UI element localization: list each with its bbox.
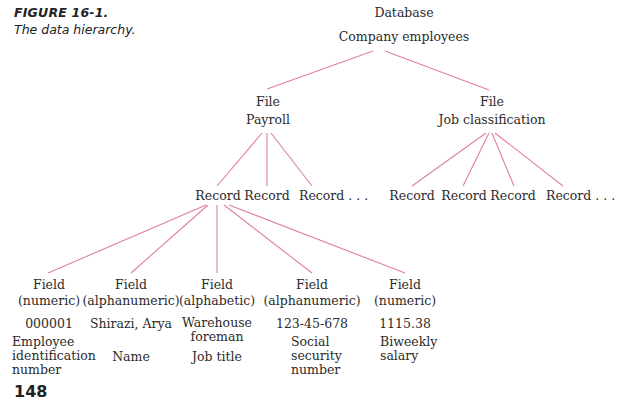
field-type: Field: [18, 277, 80, 293]
record-node: Record: [195, 188, 240, 204]
database-name: Company employees: [339, 29, 470, 45]
file-node-job-classification: File Job classification: [438, 94, 545, 128]
field-value: 123-45-678: [263, 316, 360, 332]
field-node-name: Field (alphanumeric) Shirazi, Arya: [82, 277, 179, 332]
field-type: Field: [374, 277, 436, 293]
field-description: Biweekly salary: [380, 335, 437, 363]
field-kind: (alphabetic): [179, 293, 255, 309]
field-node-ssn: Field (alphanumeric) 123-45-678: [263, 277, 360, 332]
field-kind: (numeric): [18, 293, 80, 309]
field-node-salary: Field (numeric) 1115.38: [374, 277, 436, 332]
field-kind: (alphanumeric): [82, 293, 179, 309]
field-description: Social security number: [291, 335, 342, 377]
file-type: File: [438, 94, 545, 110]
record-node-more: Record . . .: [299, 188, 368, 204]
database-type: Database: [339, 5, 470, 21]
database-node: Database Company employees: [339, 5, 470, 45]
field-value: Shirazi, Arya: [82, 316, 179, 332]
field-description: Name: [112, 349, 150, 365]
field-value: 1115.38: [374, 316, 436, 332]
field-node-job-title: Field (alphabetic) Warehouse foreman: [179, 277, 255, 344]
field-value: 000001: [18, 316, 80, 332]
file-name: Payroll: [246, 112, 290, 128]
page-number: 148: [14, 382, 47, 401]
record-node: Record: [441, 188, 486, 204]
record-node: Record: [389, 188, 434, 204]
field-kind: (numeric): [374, 293, 436, 309]
field-value: Warehouse foreman: [179, 316, 255, 344]
record-node: Record: [244, 188, 289, 204]
field-description: Job title: [192, 349, 242, 365]
field-type: Field: [263, 277, 360, 293]
record-node-more: Record . . .: [546, 188, 615, 204]
file-type: File: [246, 94, 290, 110]
field-node-employee-id: Field (numeric) 000001: [18, 277, 80, 332]
field-type: Field: [179, 277, 255, 293]
field-type: Field: [82, 277, 179, 293]
file-name: Job classification: [438, 112, 545, 128]
file-node-payroll: File Payroll: [246, 94, 290, 128]
field-kind: (alphanumeric): [263, 293, 360, 309]
field-description: Employee identification number: [12, 335, 96, 377]
record-node: Record: [490, 188, 535, 204]
